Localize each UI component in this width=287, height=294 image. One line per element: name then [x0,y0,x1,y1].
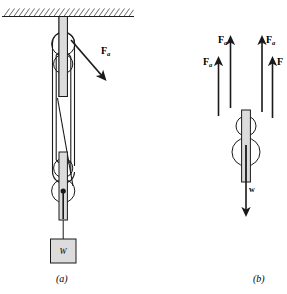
force-label-mid-left-b: Fa [203,57,212,67]
figure-container: Fa W (a) Fa Fa Fa F w (b) [0,0,287,294]
force-label-top-right-b: Fa [266,35,275,45]
panel-caption-a: (a) [56,274,68,284]
applied-force-arrow-a [71,40,103,77]
weight-box-label-a: W [60,247,67,256]
lower-block-a [52,152,75,220]
applied-force-label-a: Fa [101,46,110,56]
panel-caption-b: (b) [253,274,265,284]
force-label-mid-right-b: F [277,57,283,67]
free-body-block-b [232,110,260,182]
tension-arrows-b [219,40,273,118]
weight-label-b: w [249,186,255,194]
pulley-diagram-svg [0,0,287,294]
ceiling-support [2,9,134,17]
force-label-top-left-b: Fa [218,35,227,45]
